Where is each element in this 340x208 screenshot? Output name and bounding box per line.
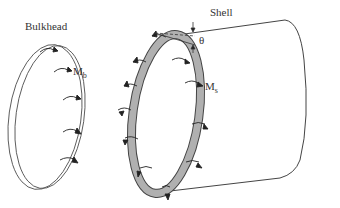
ms-symbol: M <box>205 80 215 92</box>
shell-label: Shell <box>210 6 233 18</box>
theta-label: θ <box>199 34 204 46</box>
mb-symbol: M <box>73 65 83 77</box>
bulkhead-plate <box>0 40 94 195</box>
mb-subscript: b <box>83 71 87 80</box>
shell-moment-label: Ms <box>205 80 218 95</box>
ms-subscript: s <box>215 86 218 95</box>
bulkhead-moment-label: Mb <box>73 65 87 80</box>
bulkhead-label: Bulkhead <box>25 20 67 32</box>
shell-ring <box>122 30 210 198</box>
